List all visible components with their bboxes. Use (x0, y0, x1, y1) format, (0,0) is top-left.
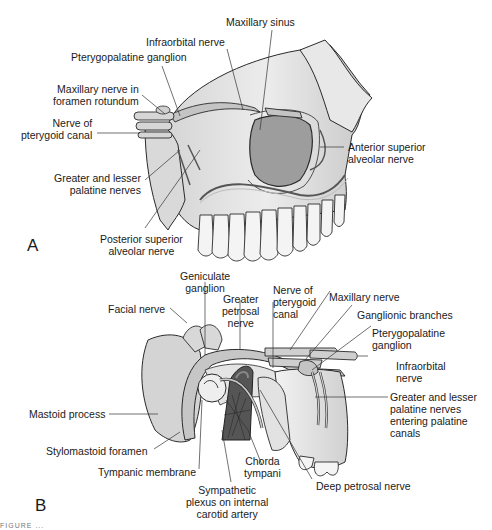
label-mastoid-process: Mastoid process (29, 408, 105, 420)
label-greater-lesser-palatine: Greater and lesser palatine nerves (54, 172, 141, 196)
label-nerve-pterygoid-canal: Nerve of pterygoid canal (21, 117, 92, 141)
label-maxillary-sinus: Maxillary sinus (226, 16, 295, 28)
panel-letter-b: B (35, 496, 46, 516)
label-maxillary-nerve: Maxillary nerve (329, 291, 400, 303)
label-deep-petrosal-nerve: Deep petrosal nerve (316, 480, 411, 492)
label-anterior-superior-alveolar: Anterior superior alveolar nerve (348, 141, 426, 165)
label-geniculate-ganglion: Geniculate ganglion (180, 270, 230, 294)
panel-a-art (134, 40, 372, 261)
anatomy-figure: Maxillary sinus Infraorbital nerve Ptery… (0, 0, 492, 530)
label-pterygopalatine-ganglion: Pterygopalatine ganglion (71, 51, 187, 63)
label-sympathetic-plexus: Sympathetic plexus on internal carotid a… (186, 484, 268, 520)
label-tympanic-membrane: Tympanic membrane (98, 466, 196, 478)
figure-caption-fragment: FIGURE ... (0, 522, 44, 529)
label-greater-petrosal-nerve: Greater petrosal nerve (222, 293, 259, 329)
label-infraorbital-nerve-b: Infraorbital nerve (396, 360, 446, 384)
label-posterior-superior-alveolar: Posterior superior alveolar nerve (100, 233, 183, 257)
panel-b-art (142, 325, 357, 476)
panel-letter-a: A (27, 236, 38, 256)
label-greater-lesser-palatine-b: Greater and lesser palatine nerves enter… (390, 391, 477, 439)
label-maxillary-nerve-foramen: Maxillary nerve in foramen rotundum (53, 83, 139, 107)
label-nerve-pterygoid-canal-b: Nerve of pterygoid canal (273, 284, 316, 320)
label-ganglionic-branches: Ganglionic branches (357, 309, 453, 321)
label-pterygopalatine-ganglion-b: Pterygopalatine ganglion (372, 327, 445, 351)
label-infraorbital-nerve: Infraorbital nerve (146, 36, 225, 48)
label-chorda-tympani: Chorda tympani (244, 455, 281, 479)
label-facial-nerve: Facial nerve (108, 303, 165, 315)
label-stylomastoid-foramen: Stylomastoid foramen (46, 445, 148, 457)
